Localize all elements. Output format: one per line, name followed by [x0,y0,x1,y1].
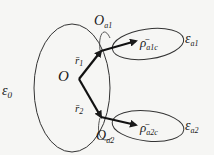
region-main-label: ε0 [2,83,13,100]
upper-point-label: Oa1 [94,13,112,30]
vector-rho-upper [101,41,136,51]
lower-point-label: Oa2 [96,128,114,145]
region-upper-label: εa1 [185,31,199,48]
region-lower-label: εa2 [185,118,199,135]
vector-r1-label: r̄1 [75,54,83,68]
diagram-canvas: O ε0 Oa1 Oa2 r̄1 r̄2 ρ̄a1c ρ̄a2c εa1 εa2 [0,0,214,155]
origin-label: O [58,68,69,84]
region-lower-ellipse [111,107,186,144]
vector-rho-upper-label: ρ̄a1c [139,35,158,52]
vector-rho-lower-label: ρ̄a2c [139,120,158,137]
vector-r2-label: r̄2 [75,102,83,116]
vector-rho-lower [101,117,136,125]
